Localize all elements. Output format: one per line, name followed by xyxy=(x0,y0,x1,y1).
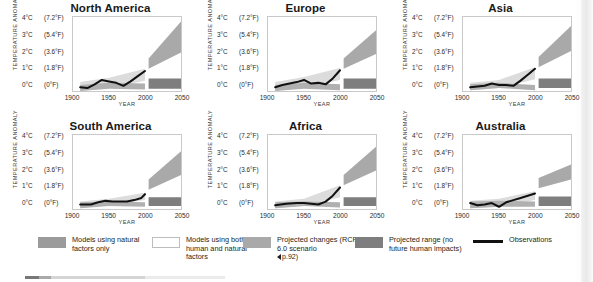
legend-label-projected: Projected changes (RCP 6.0 scenario xyxy=(277,235,357,253)
band-projected-changes-rcp-6-0-scenario xyxy=(149,151,181,189)
y-axis-tick-label: 4°C(7.2°F) xyxy=(217,131,265,140)
x-axis-tick-label: 2050 xyxy=(565,94,580,101)
y-tick-celsius: 4°C xyxy=(412,13,434,22)
x-axis-tick-label: 1950 xyxy=(491,94,506,101)
y-tick-fahrenheit: (3.6°F) xyxy=(239,165,265,174)
y-axis-tick-label: 3°C(5.4°F) xyxy=(217,30,265,39)
y-tick-fahrenheit: (1.8°F) xyxy=(239,63,265,72)
x-axis-tick-label: 1950 xyxy=(296,212,311,219)
legend-page-reference-text: p.92) xyxy=(282,253,298,261)
x-axis-tick-label: 2000 xyxy=(333,212,348,219)
y-tick-fahrenheit: (0°F) xyxy=(434,80,460,89)
plot-area xyxy=(462,16,572,92)
x-axis-tick-label: 1900 xyxy=(455,94,470,101)
y-axis-tick-label: 4°C(7.2°F) xyxy=(412,13,460,22)
y-tick-fahrenheit: (7.2°F) xyxy=(44,13,70,22)
y-tick-fahrenheit: (7.2°F) xyxy=(44,131,70,140)
y-tick-fahrenheit: (3.6°F) xyxy=(239,47,265,56)
y-tick-fahrenheit: (3.6°F) xyxy=(44,47,70,56)
chart-panel-australia: AustraliaTEMPERATURE ANOMALY4°C(7.2°F)3°… xyxy=(390,118,583,236)
band-projected-changes-rcp-6-0-scenario xyxy=(344,30,376,68)
y-tick-fahrenheit: (5.4°F) xyxy=(239,148,265,157)
legend-item-natural: Models using natural factors only xyxy=(38,236,150,253)
y-tick-celsius: 3°C xyxy=(217,148,239,157)
y-tick-fahrenheit: (7.2°F) xyxy=(434,13,460,22)
y-axis-tick-label: 3°C(5.4°F) xyxy=(412,148,460,157)
band-projected-changes-rcp-6-0-scenario xyxy=(539,26,571,67)
y-axis-tick-label: 2°C(3.6°F) xyxy=(22,47,70,56)
y-tick-fahrenheit: (7.2°F) xyxy=(239,131,265,140)
y-tick-fahrenheit: (1.8°F) xyxy=(434,63,460,72)
x-axis-tick-label: 2050 xyxy=(175,94,190,101)
y-axis-tick-label: 1°C(1.8°F) xyxy=(412,181,460,190)
y-axis-ticks: 4°C(7.2°F)3°C(5.4°F)2°C(3.6°F)1°C(1.8°F)… xyxy=(400,134,460,210)
y-axis-tick-label: 3°C(5.4°F) xyxy=(22,148,70,157)
legend-swatch-range-icon xyxy=(355,237,383,248)
y-axis-tick-label: 1°C(1.8°F) xyxy=(22,181,70,190)
legend-swatch-natural-icon xyxy=(38,237,66,248)
y-tick-celsius: 3°C xyxy=(217,30,239,39)
legend-swatch-projected-icon xyxy=(243,237,271,248)
x-axis-title: YEAR xyxy=(267,219,377,225)
y-axis-tick-label: 1°C(1.8°F) xyxy=(217,63,265,72)
legend-item-observations: Observations xyxy=(473,236,581,247)
x-axis-tick-label: 1900 xyxy=(65,212,80,219)
y-tick-celsius: 3°C xyxy=(412,30,434,39)
y-tick-fahrenheit: (0°F) xyxy=(44,198,70,207)
y-axis-tick-label: 0°C(0°F) xyxy=(22,198,70,207)
y-tick-fahrenheit: (1.8°F) xyxy=(239,181,265,190)
chart-panel-north-america: North AmericaTEMPERATURE ANOMALY4°C(7.2°… xyxy=(0,0,193,118)
y-tick-celsius: 2°C xyxy=(217,47,239,56)
y-axis-tick-label: 2°C(3.6°F) xyxy=(412,47,460,56)
band-projected-range-no-future-human-impacts xyxy=(539,78,571,88)
band-projected-range-no-future-human-impacts xyxy=(344,197,376,206)
chart-panel-south-america: South AmericaTEMPERATURE ANOMALY4°C(7.2°… xyxy=(0,118,193,236)
y-axis-tick-label: 4°C(7.2°F) xyxy=(22,13,70,22)
x-axis-tick-label: 2000 xyxy=(138,94,153,101)
legend-page-reference: p.92) xyxy=(277,253,298,261)
y-tick-celsius: 4°C xyxy=(217,131,239,140)
x-axis-tick-label: 2000 xyxy=(333,94,348,101)
y-tick-celsius: 2°C xyxy=(412,47,434,56)
legend-label-range: Projected range (no future human impacts… xyxy=(389,236,473,253)
band-projected-changes-rcp-6-0-scenario xyxy=(539,165,571,189)
y-axis-tick-label: 1°C(1.8°F) xyxy=(217,181,265,190)
y-tick-celsius: 0°C xyxy=(412,80,434,89)
x-axis-tick-label: 2000 xyxy=(528,94,543,101)
band-projected-range-no-future-human-impacts xyxy=(149,197,181,206)
y-tick-fahrenheit: (3.6°F) xyxy=(434,47,460,56)
chart-panel-europe: EuropeTEMPERATURE ANOMALY4°C(7.2°F)3°C(5… xyxy=(195,0,388,118)
x-axis-tick-label: 1950 xyxy=(296,94,311,101)
x-axis-tick-label: 2000 xyxy=(528,212,543,219)
y-axis-tick-label: 4°C(7.2°F) xyxy=(22,131,70,140)
x-axis-tick-label: 2050 xyxy=(565,212,580,219)
plot-area xyxy=(462,134,572,210)
y-tick-celsius: 3°C xyxy=(22,148,44,157)
y-tick-celsius: 4°C xyxy=(412,131,434,140)
chart-panel-asia: AsiaTEMPERATURE ANOMALY4°C(7.2°F)3°C(5.4… xyxy=(390,0,583,118)
y-axis-ticks: 4°C(7.2°F)3°C(5.4°F)2°C(3.6°F)1°C(1.8°F)… xyxy=(10,134,70,210)
y-axis-tick-label: 2°C(3.6°F) xyxy=(412,165,460,174)
y-tick-celsius: 3°C xyxy=(22,30,44,39)
legend-label-natural: Models using natural factors only xyxy=(72,236,150,253)
legend-swatch-both-icon xyxy=(152,237,180,248)
footer-divider xyxy=(25,276,225,279)
plot-area xyxy=(267,16,377,92)
y-axis-ticks: 4°C(7.2°F)3°C(5.4°F)2°C(3.6°F)1°C(1.8°F)… xyxy=(10,16,70,92)
y-tick-celsius: 0°C xyxy=(412,198,434,207)
x-axis-title: YEAR xyxy=(462,219,572,225)
legend-item-projected: Projected changes (RCP 6.0 scenario p.92… xyxy=(243,236,365,262)
band-projected-range-no-future-human-impacts xyxy=(344,78,376,88)
y-tick-celsius: 1°C xyxy=(217,181,239,190)
x-axis-tick-label: 1900 xyxy=(455,212,470,219)
y-axis-tick-label: 2°C(3.6°F) xyxy=(22,165,70,174)
y-tick-fahrenheit: (0°F) xyxy=(434,198,460,207)
x-axis-title: YEAR xyxy=(72,101,182,107)
chart-legend: Models using natural factors only Models… xyxy=(0,236,581,270)
x-axis-tick-label: 1900 xyxy=(65,94,80,101)
y-tick-fahrenheit: (0°F) xyxy=(44,80,70,89)
legend-label-observations: Observations xyxy=(509,236,552,245)
y-tick-celsius: 2°C xyxy=(412,165,434,174)
x-axis-tick-label: 1950 xyxy=(491,212,506,219)
y-axis-tick-label: 4°C(7.2°F) xyxy=(217,13,265,22)
